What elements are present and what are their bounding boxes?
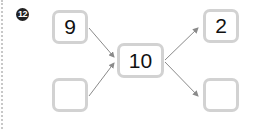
center-box: 10	[117, 43, 164, 78]
arrow-center-to-bottom-right	[165, 62, 198, 96]
left-top-value: 9	[64, 15, 76, 39]
arrow-center-to-top-right	[165, 28, 198, 60]
left-top-box: 9	[52, 10, 88, 44]
arrow-top-left-to-center	[89, 28, 114, 57]
arrow-bottom-left-to-center	[89, 63, 114, 96]
right-top-box: 2	[203, 9, 239, 43]
right-top-value: 2	[215, 14, 227, 38]
center-value: 10	[129, 49, 152, 73]
left-bottom-answer-box[interactable]	[52, 78, 88, 112]
right-bottom-answer-box[interactable]	[203, 78, 239, 112]
